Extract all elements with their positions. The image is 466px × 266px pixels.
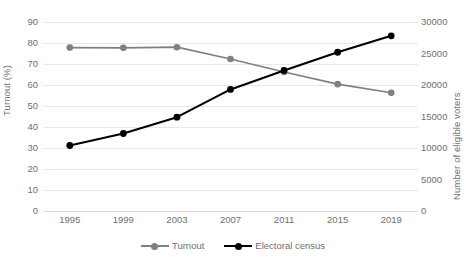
legend-label: Turnout [172,240,204,251]
y-tick-label-left: 60 [27,80,38,90]
y-tick-label-right: 5000 [421,175,442,185]
data-point [227,56,234,63]
data-point [120,130,127,137]
y-axis-ticks-left: 0102030405060708090 [12,0,38,266]
y-tick-label-right: 30000 [421,17,447,27]
x-axis-ticks: 1995199920032007201120152019 [43,214,418,230]
data-point [281,67,288,74]
x-tick-label: 2015 [327,214,348,225]
y-tick-label-right: 25000 [421,49,447,59]
data-point [334,81,341,88]
y-tick-label-right: 15000 [421,112,447,122]
data-point [66,142,73,149]
data-point [174,114,181,121]
y-tick-label-left: 30 [27,143,38,153]
y-tick-label-left: 0 [33,206,38,216]
gridline [43,211,418,212]
y-tick-label-left: 20 [27,164,38,174]
legend-item-turnout[interactable]: Turnout [141,240,204,251]
data-point [334,49,341,56]
line-chart: Turnout (%) Number of eligible voters 01… [0,0,466,266]
y-tick-label-left: 50 [27,101,38,111]
x-tick-label: 1999 [113,214,134,225]
legend-label: Electoral census [255,240,325,251]
y-axis-title-left: Turnout (%) [1,65,12,116]
x-tick-label: 2003 [166,214,187,225]
y-tick-label-right: 20000 [421,80,447,90]
legend-item-electoral-census[interactable]: Electoral census [224,240,325,251]
data-point [388,89,395,96]
chart-legend: TurnoutElectoral census [0,240,466,251]
legend-dot [235,243,242,250]
data-point [388,32,395,39]
y-tick-label-left: 40 [27,122,38,132]
y-axis-ticks-right: 050001000015000200002500030000 [421,0,455,266]
data-point [174,44,181,51]
legend-marker-icon [141,241,169,251]
x-tick-label: 2019 [381,214,402,225]
y-tick-label-left: 90 [27,17,38,27]
x-tick-label: 1995 [59,214,80,225]
y-tick-label-left: 10 [27,185,38,195]
y-tick-label-right: 0 [421,206,426,216]
data-point [120,45,127,52]
x-tick-label: 2007 [220,214,241,225]
data-point [227,86,234,93]
y-tick-label-right: 10000 [421,143,447,153]
data-point [66,44,73,51]
y-tick-label-left: 80 [27,38,38,48]
series-line-turnout [70,47,391,93]
y-tick-label-left: 70 [27,59,38,69]
x-tick-label: 2011 [274,214,294,225]
series-layer [43,22,418,211]
plot-area [43,22,418,211]
legend-dot [151,243,158,250]
legend-marker-icon [224,241,252,251]
